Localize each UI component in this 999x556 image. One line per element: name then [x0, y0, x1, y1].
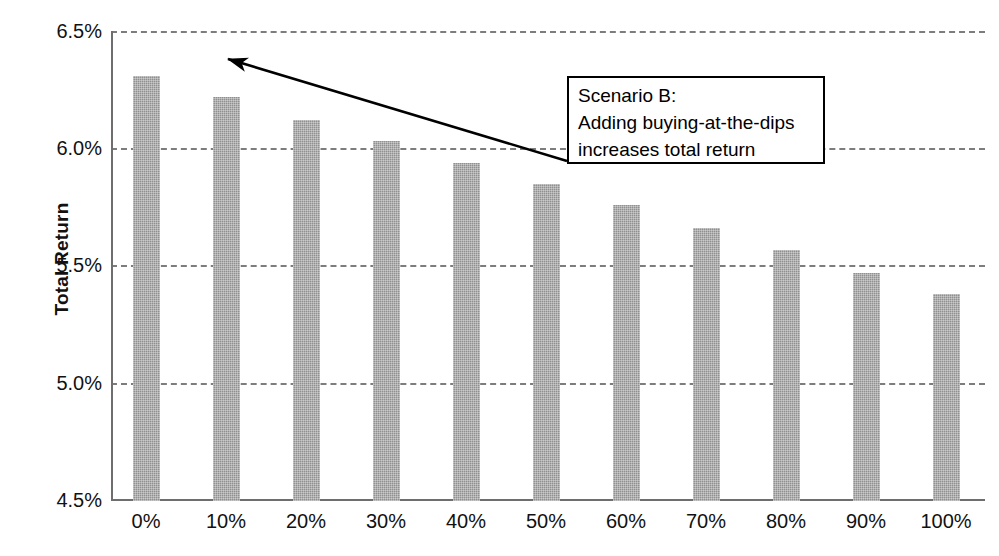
callout-line: increases total return — [578, 136, 815, 163]
x-tick-label: 40% — [421, 510, 511, 533]
bar — [533, 184, 560, 501]
scenario-b-callout: Scenario B: Adding buying-at-the-dips in… — [567, 76, 825, 164]
callout-line: Scenario B: — [578, 82, 815, 109]
x-tick-label: 50% — [501, 510, 591, 533]
bar-chart: Total Return 6.5% 6.0% 5.5% 5.0% 4.5% 0%… — [0, 0, 999, 556]
bar — [293, 120, 320, 501]
x-tick-label: 30% — [341, 510, 431, 533]
x-tick-label: 90% — [821, 510, 911, 533]
bar — [133, 76, 160, 501]
x-tick-label: 0% — [101, 510, 191, 533]
bar — [373, 141, 400, 501]
bar — [453, 163, 480, 501]
bar-series — [0, 0, 999, 556]
bar — [693, 228, 720, 501]
x-tick-label: 80% — [741, 510, 831, 533]
bar — [213, 97, 240, 501]
x-tick-label: 100% — [901, 510, 991, 533]
bar — [773, 250, 800, 501]
bar — [853, 273, 880, 501]
callout-line: Adding buying-at-the-dips — [578, 109, 815, 136]
x-tick-label: 20% — [261, 510, 351, 533]
x-tick-label: 10% — [181, 510, 271, 533]
bar — [933, 294, 960, 501]
x-tick-label: 70% — [661, 510, 751, 533]
x-tick-label: 60% — [581, 510, 671, 533]
bar — [613, 205, 640, 501]
